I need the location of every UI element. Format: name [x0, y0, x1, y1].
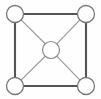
node-center-hub — [43, 42, 60, 59]
graph-diagram-figure — [0, 0, 101, 99]
edge-top-right-to-center — [57, 20, 80, 44]
node-top-right — [78, 6, 95, 23]
edge-top-left-to-center — [21, 20, 45, 44]
graph-canvas — [0, 0, 101, 99]
node-bottom-left — [7, 78, 24, 95]
edge-bottom-right-to-center — [57, 56, 80, 80]
node-top-left — [7, 6, 24, 23]
node-bottom-right — [78, 78, 95, 95]
edge-bottom-left-to-center — [21, 56, 45, 80]
